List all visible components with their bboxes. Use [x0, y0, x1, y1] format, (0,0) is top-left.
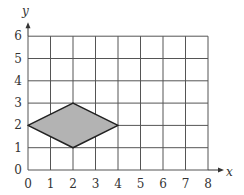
y-axis-label: y [21, 4, 29, 18]
y-tick-label: 5 [14, 52, 22, 66]
grid-lines [28, 36, 208, 170]
x-tick-label: 0 [24, 177, 32, 191]
x-tick-label: 7 [182, 177, 190, 191]
x-axis-arrow-icon [218, 168, 224, 173]
x-tick-label: 2 [69, 177, 77, 191]
y-axis-arrow-icon [26, 22, 31, 28]
x-tick-label: 5 [137, 177, 145, 191]
y-tick-label: 6 [14, 29, 22, 43]
y-tick-label: 2 [14, 118, 22, 132]
x-tick-label: 6 [159, 177, 167, 191]
x-tick-label: 4 [114, 177, 122, 191]
axes [26, 22, 225, 172]
tick-labels: 0123456780123456 [14, 29, 212, 191]
x-tick-label: 3 [92, 177, 100, 191]
y-tick-label: 4 [14, 74, 22, 88]
coordinate-grid: 0123456780123456 x y [0, 0, 244, 195]
y-tick-label: 3 [14, 96, 22, 110]
x-tick-label: 1 [47, 177, 55, 191]
rhombus-shape [28, 103, 118, 148]
x-axis-label: x [226, 165, 233, 179]
x-tick-label: 8 [204, 177, 212, 191]
y-tick-label: 1 [14, 141, 22, 155]
y-tick-label: 0 [14, 163, 22, 177]
